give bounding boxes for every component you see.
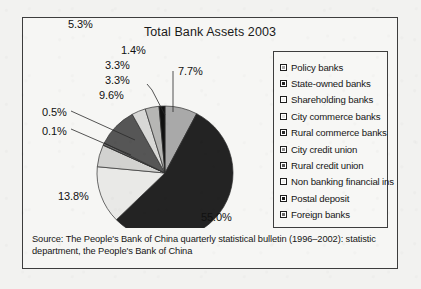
legend-swatch-icon — [280, 113, 287, 120]
legend-item: Shareholding banks — [280, 92, 387, 108]
pie-label-3-3-a: 3.3% — [105, 59, 130, 71]
legend-swatch-icon — [280, 64, 287, 71]
legend-item: Foreign banks — [280, 207, 387, 223]
pie-label-5-3: 5.3% — [68, 18, 93, 30]
legend-list: Policy banksState-owned banksShareholdin… — [280, 59, 387, 223]
legend-item-label: Rural credit union — [291, 160, 364, 171]
legend-item-label: City credit union — [291, 144, 357, 155]
figure-frame: Total Bank Assets 2003 1.4% 3.3% 3.3% 7.… — [22, 17, 398, 269]
legend-item: Policy banks — [280, 59, 387, 75]
legend-swatch-icon — [280, 178, 287, 185]
legend-swatch-icon — [280, 146, 287, 153]
legend-item-label: Foreign banks — [291, 209, 350, 220]
legend: Policy banksState-owned banksShareholdin… — [273, 51, 388, 228]
pie-label-0-1: 0.1% — [42, 125, 67, 137]
legend-item-label: Policy banks — [291, 62, 343, 73]
legend-item: Non banking financial ins — [280, 174, 387, 190]
legend-item: Rural credit union — [280, 157, 387, 173]
legend-item-label: Rural commerce banks — [291, 127, 387, 138]
legend-item-label: Shareholding banks — [291, 94, 373, 105]
pie-label-1-4: 1.4% — [121, 44, 146, 56]
legend-swatch-icon — [280, 162, 287, 169]
legend-item: Postal deposit — [280, 190, 387, 206]
legend-item: State-owned banks — [280, 75, 387, 91]
legend-swatch-icon — [280, 96, 287, 103]
legend-item: City credit union — [280, 141, 387, 157]
pie-label-55-0: 55.0% — [201, 211, 232, 223]
legend-item-label: State-owned banks — [291, 78, 371, 89]
legend-item-label: Postal deposit — [291, 193, 349, 204]
legend-swatch-icon — [280, 80, 287, 87]
legend-item-label: City commerce banks — [291, 111, 380, 122]
legend-item: Rural commerce banks — [280, 125, 387, 141]
source-note: Source: The People's Bank of China quart… — [32, 233, 388, 257]
pie-label-7-7: 7.7% — [178, 65, 203, 77]
pie-slice-group — [97, 106, 233, 228]
pie-label-13-8: 13.8% — [58, 190, 89, 202]
legend-swatch-icon — [280, 195, 287, 202]
legend-item-label: Non banking financial ins — [291, 176, 394, 187]
legend-swatch-icon — [280, 211, 287, 218]
legend-item: City commerce banks — [280, 108, 387, 124]
legend-swatch-icon — [280, 129, 287, 136]
pie-label-9-6: 9.6% — [99, 89, 124, 101]
pie-label-0-5: 0.5% — [42, 106, 67, 118]
pie-label-3-3-b: 3.3% — [105, 74, 130, 86]
